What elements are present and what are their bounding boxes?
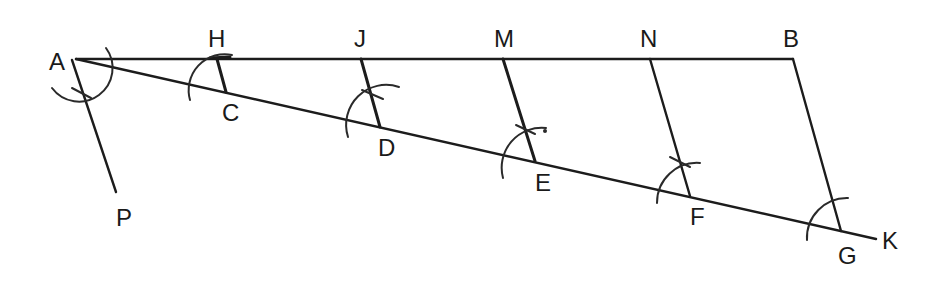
dot-E <box>543 129 547 133</box>
label-F: F <box>690 203 705 230</box>
diagram-canvas: A H J M N B C D E F G K P <box>0 0 946 285</box>
label-G: G <box>838 242 857 269</box>
label-B: B <box>783 25 799 52</box>
label-K: K <box>882 227 898 254</box>
segment-HC <box>217 59 226 92</box>
label-D: D <box>378 134 395 161</box>
label-M: M <box>494 25 514 52</box>
segment-AK <box>76 59 876 239</box>
arc-at-G <box>807 198 848 240</box>
label-H: H <box>208 25 225 52</box>
label-C: C <box>222 99 239 126</box>
construction-diagram: A H J M N B C D E F G K P <box>0 0 946 285</box>
segment-AP <box>72 60 116 192</box>
segment-NF <box>650 59 690 196</box>
segment-BG <box>793 59 841 231</box>
label-A: A <box>49 48 65 75</box>
label-J: J <box>354 25 366 52</box>
label-P: P <box>116 204 132 231</box>
label-N: N <box>640 25 657 52</box>
label-E: E <box>535 169 551 196</box>
